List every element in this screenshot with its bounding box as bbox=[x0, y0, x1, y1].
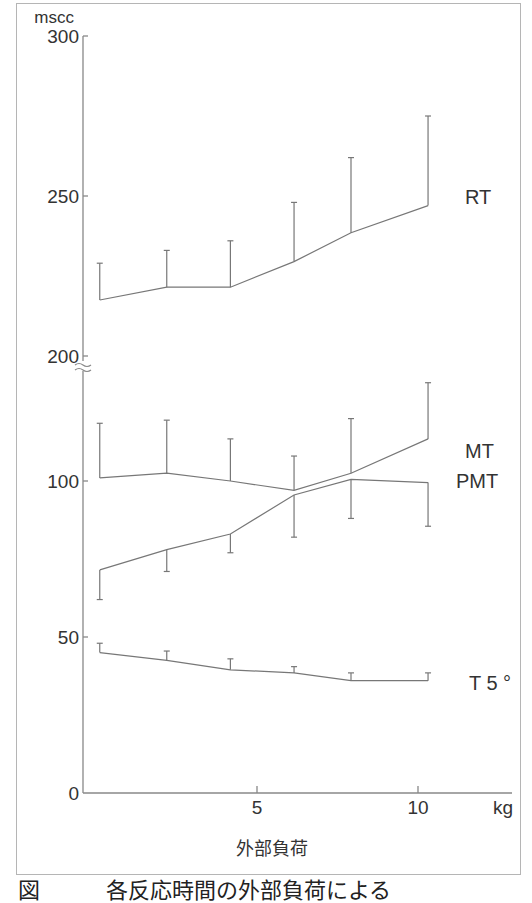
series-label-rt: RT bbox=[465, 186, 491, 208]
x-tick-10: 10 bbox=[407, 797, 428, 818]
series-label-pmt: PMT bbox=[456, 470, 498, 492]
x-tick-5: 5 bbox=[252, 797, 263, 818]
y-tick-0: 0 bbox=[68, 783, 79, 804]
series-label-mt: MT bbox=[465, 440, 494, 462]
y-tick-100: 100 bbox=[47, 471, 79, 492]
x-axis bbox=[83, 786, 512, 793]
series-rt bbox=[97, 116, 431, 300]
x-axis-title: 外部負荷 bbox=[236, 839, 308, 859]
y-tick-50: 50 bbox=[58, 627, 79, 648]
y-tick-300: 300 bbox=[47, 26, 79, 47]
y-tick-250: 250 bbox=[47, 186, 79, 207]
series-t5 bbox=[97, 643, 431, 680]
series-pmt bbox=[97, 479, 431, 599]
series-mt bbox=[97, 383, 431, 491]
y-tick-200: 200 bbox=[47, 346, 79, 367]
y-unit-label: mscc bbox=[34, 8, 74, 27]
series-label-t5: T 5 ° bbox=[469, 672, 511, 694]
y-axis bbox=[83, 36, 88, 793]
figure-caption: 図 各反応時間の外部負荷による bbox=[18, 880, 391, 902]
x-unit-label: kg bbox=[493, 797, 513, 818]
